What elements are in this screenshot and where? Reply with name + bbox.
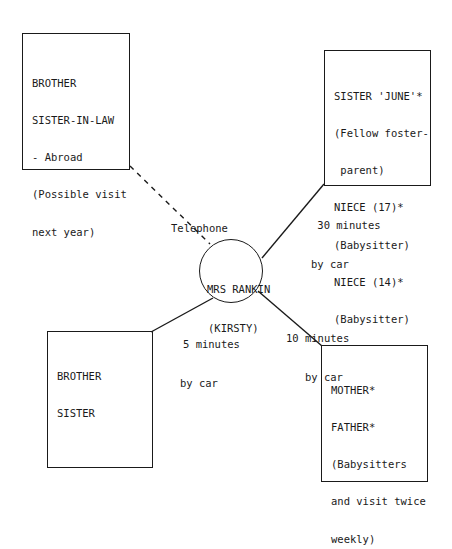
node-line: next year) [32, 226, 127, 238]
node-line: (Possible visit [32, 188, 127, 200]
label-line: by car [286, 371, 349, 384]
label-line: 10 minutes [286, 332, 349, 345]
node-line: weekly) [331, 533, 426, 545]
node-line: FATHER* [331, 421, 426, 433]
mother-father-travel-label: 10 minutes by car [286, 306, 349, 397]
label-line: Telephone [171, 222, 228, 235]
brother-sister-travel-label: 5 minutes by car [183, 312, 240, 403]
node-line: SISTER-IN-LAW [32, 114, 127, 126]
label-line: 5 minutes [183, 338, 240, 351]
node-line: (Babysitters [331, 458, 426, 470]
label-line: by car [311, 258, 381, 271]
node-text: BROTHER SISTER [57, 345, 101, 444]
node-brother-sister-in-law: BROTHER SISTER-IN-LAW - Abroad (Possible… [22, 33, 130, 170]
node-line: (Fellow foster- [334, 127, 429, 139]
node-line: and visit twice [331, 495, 426, 507]
center-name: MRS RANKIN [207, 283, 270, 296]
node-line: parent) [334, 164, 429, 176]
sister-june-travel-label: 30 minutes by car [311, 193, 381, 284]
node-line: BROTHER [57, 370, 101, 382]
node-brother-sister: BROTHER SISTER [47, 331, 153, 468]
node-line: SISTER [57, 407, 101, 419]
label-line: by car [180, 377, 240, 390]
node-sister-june-nieces: SISTER 'JUNE'* (Fellow foster- parent) N… [324, 50, 431, 186]
center-node-mrs-rankin: MRS RANKIN (KIRSTY) [199, 239, 263, 303]
node-line: SISTER 'JUNE'* [334, 90, 429, 102]
node-line: - Abroad [32, 151, 127, 163]
node-text: BROTHER SISTER-IN-LAW - Abroad (Possible… [32, 52, 127, 263]
label-line: 30 minutes [311, 219, 381, 232]
telephone-label: Telephone [171, 196, 228, 248]
node-line: BROTHER [32, 77, 127, 89]
